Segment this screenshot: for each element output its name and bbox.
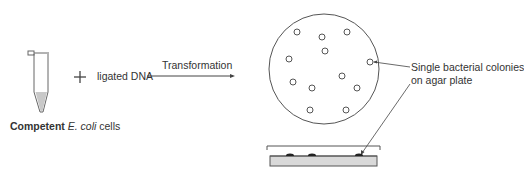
colonies-label-line2: on agar plate (411, 74, 472, 86)
petri-dish-top-view (269, 14, 379, 124)
transformation-arrow-icon (147, 74, 235, 78)
transformation-diagram (0, 0, 524, 175)
microcentrifuge-tube-icon (28, 51, 49, 112)
plus-icon (74, 71, 86, 83)
leader-lines (361, 61, 410, 156)
ligated-dna-label: ligated DNA (97, 70, 153, 82)
petri-dish-side-view (267, 146, 380, 166)
label-rest-part: cells (99, 120, 120, 132)
colonies-label-line1: Single bacterial colonies (411, 61, 524, 73)
competent-cells-label: Competent E. coli cells (10, 120, 120, 132)
label-bold-part: Competent (10, 120, 65, 132)
transformation-label: Transformation (162, 59, 232, 71)
label-italic-part: E. coli (68, 120, 97, 132)
